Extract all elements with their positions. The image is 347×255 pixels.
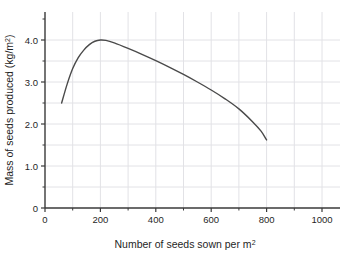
x-tick-label: 1000: [311, 214, 332, 225]
x-tick-label: 200: [92, 214, 108, 225]
y-tick-label: 1.0: [25, 161, 38, 172]
seed-mass-line-chart: 0200400600800100001.02.03.04.0 Number of…: [0, 0, 347, 255]
x-tick-label: 400: [148, 214, 164, 225]
y-tick-label: 4.0: [25, 35, 38, 46]
chart-canvas: 0200400600800100001.02.03.04.0 Number of…: [0, 0, 347, 255]
x-tick-label: 600: [203, 214, 219, 225]
x-axis-title: Number of seeds sown per m2: [114, 238, 255, 250]
y-tick-label: 2.0: [25, 119, 38, 130]
x-tick-label: 800: [259, 214, 275, 225]
chart-background: [0, 0, 347, 255]
x-tick-label: 0: [42, 214, 47, 225]
y-tick-label: 0: [33, 203, 38, 214]
y-axis-title: Mass of seeds produced (kg/m2): [3, 35, 15, 186]
y-tick-label: 3.0: [25, 77, 38, 88]
